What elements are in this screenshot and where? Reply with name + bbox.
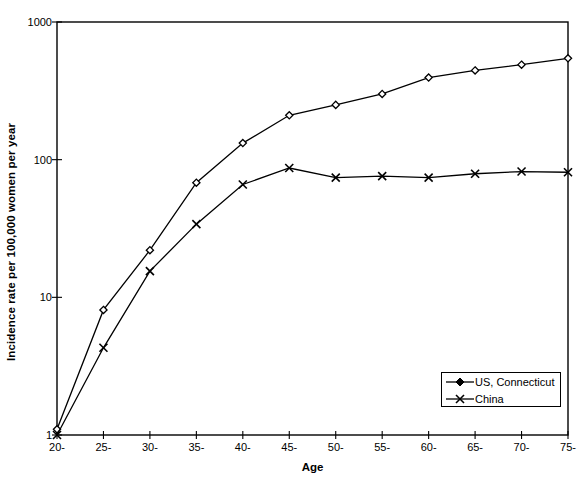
data-point-marker	[286, 112, 293, 119]
data-point-marker	[471, 67, 478, 74]
x-axis-tick-label: 60-	[409, 441, 449, 453]
x-axis-tick-label: 35-	[176, 441, 216, 453]
data-point-marker	[332, 101, 339, 108]
x-axis-tick-label: 50-	[316, 441, 356, 453]
x-axis-tick-label: 25-	[83, 441, 123, 453]
data-point-marker	[379, 90, 386, 97]
x-axis-tick-label: 75-	[548, 441, 584, 453]
data-point-marker	[518, 61, 525, 68]
data-point-marker	[564, 55, 571, 62]
x-axis-tick-label: 30-	[130, 441, 170, 453]
x-axis-tick-label: 45-	[269, 441, 309, 453]
data-point-marker	[425, 74, 432, 81]
x-axis-title: Age	[57, 461, 568, 473]
y-axis-tick-label: 1	[8, 429, 52, 441]
chart-legend: US, Connecticut China	[441, 372, 561, 407]
x-axis-tick-label: 40-	[223, 441, 263, 453]
plot-area	[0, 0, 584, 484]
legend-label: US, Connecticut	[475, 376, 554, 388]
legend-label: China	[475, 393, 504, 405]
x-axis-tick-label: 55-	[362, 441, 402, 453]
x-axis-tick-label: 65-	[455, 441, 495, 453]
legend-item-china: China	[442, 390, 560, 407]
x-axis-tick-label: 70-	[502, 441, 542, 453]
legend-item-us-connecticut: US, Connecticut	[442, 373, 560, 390]
y-axis-tick-label: 1000	[8, 16, 52, 28]
y-axis-tick-label: 100	[8, 154, 52, 166]
diamond-marker-icon	[445, 375, 475, 389]
x-marker-icon	[445, 392, 475, 406]
x-axis-tick-label: 20-	[37, 441, 77, 453]
incidence-rate-line-chart: Incidence rate per 100,000 women per yea…	[0, 0, 584, 484]
y-axis-tick-label: 10	[8, 291, 52, 303]
